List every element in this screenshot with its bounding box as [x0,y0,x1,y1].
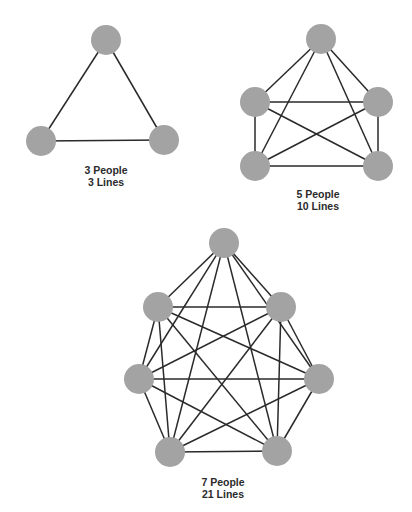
graph-7-label: 7 People 21 Lines [201,476,244,500]
person-node [26,126,56,156]
connection-line [139,379,277,451]
graph-7-lines-count: 21 Lines [201,488,244,500]
person-node [266,292,296,322]
connection-line [170,379,319,452]
connection-line [170,243,224,452]
graph-5 [240,24,393,181]
person-node [149,125,179,155]
connection-line [158,307,319,379]
person-node [363,87,393,117]
graph-7-people-count: 7 People [201,476,244,488]
person-node [240,151,270,181]
person-node [363,151,393,181]
graph-5-lines-count: 10 Lines [296,200,339,212]
person-node [262,436,292,466]
graph-5-label: 5 People 10 Lines [296,188,339,212]
person-node [91,25,121,55]
connection-line [41,140,164,141]
person-node [124,364,154,394]
connection-line [41,40,106,141]
person-node [304,364,334,394]
connection-line [106,40,164,140]
graph-5-people-count: 5 People [296,188,339,200]
complete-graphs-diagram [0,0,412,512]
graph-3-label: 3 People 3 Lines [84,164,127,188]
connection-line [170,451,277,452]
person-node [306,24,336,54]
graph-7 [124,228,334,467]
person-node [143,292,173,322]
person-node [240,87,270,117]
graph-3 [26,25,179,156]
graph-3-people-count: 3 People [84,164,127,176]
graph-3-lines-count: 3 Lines [84,176,127,188]
person-node [155,437,185,467]
person-node [209,228,239,258]
